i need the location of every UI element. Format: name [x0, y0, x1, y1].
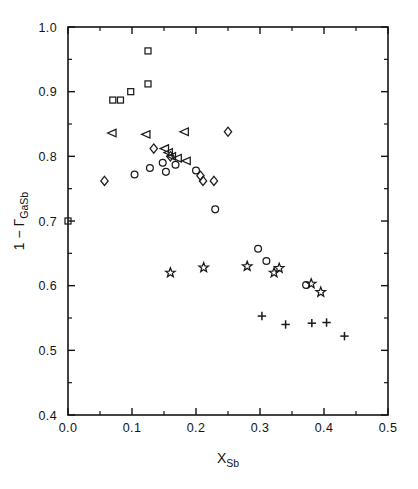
plot-frame [68, 27, 388, 415]
diamonds-point [150, 144, 157, 153]
triangles-left-point [142, 131, 150, 138]
triangles-left-point [108, 129, 116, 136]
y-tick-label: 0.8 [38, 150, 57, 164]
x-tick-label: 0.5 [379, 421, 398, 435]
stars-point [306, 279, 316, 288]
stars-point [316, 287, 326, 296]
squares-point [110, 97, 116, 103]
diamonds-point [101, 176, 108, 185]
y-tick-label: 0.5 [38, 344, 57, 358]
x-tick-label: 0.0 [59, 421, 78, 435]
x-tick-label: 0.4 [315, 421, 334, 435]
circles-point [172, 161, 179, 168]
squares-point [117, 97, 123, 103]
squares-point [145, 81, 151, 87]
x-tick-label: 0.3 [251, 421, 270, 435]
y-tick-label: 0.4 [38, 409, 57, 423]
y-axis-title: 1 − ΓGaSb [11, 192, 30, 250]
x-tick-label: 0.1 [123, 421, 142, 435]
squares-point [128, 89, 134, 95]
circles-point [131, 171, 138, 178]
x-tick-label: 0.2 [187, 421, 206, 435]
y-tick-label: 0.7 [38, 215, 57, 229]
circles-point [263, 258, 270, 265]
figure-container: 0.00.10.20.30.40.50.40.50.60.70.80.91.0X… [0, 0, 418, 489]
triangles-left-point [180, 128, 188, 135]
diamonds-point [210, 176, 217, 185]
stars-point [242, 261, 252, 270]
y-tick-label: 1.0 [38, 21, 57, 35]
y-tick-label: 0.9 [38, 85, 57, 99]
circles-point [163, 168, 170, 175]
circles-point [255, 245, 262, 252]
stars-point [199, 263, 209, 272]
y-tick-label: 0.6 [38, 279, 57, 293]
stars-point [166, 268, 176, 277]
circles-point [212, 206, 219, 213]
squares-point [145, 48, 151, 54]
triangles-left-point [182, 157, 190, 164]
diamonds-point [224, 127, 231, 136]
circles-point [147, 165, 154, 172]
circles-point [159, 159, 166, 166]
x-axis-title: XSb [217, 450, 239, 469]
scatter-plot: 0.00.10.20.30.40.50.40.50.60.70.80.91.0X… [0, 0, 418, 489]
